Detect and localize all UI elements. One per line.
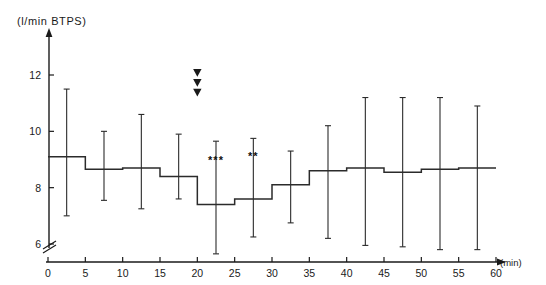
arrow-down-icon bbox=[193, 79, 201, 87]
figure-container: (l/min BTPS) 681012 05101520253035404550… bbox=[0, 0, 546, 285]
arrow-down-head bbox=[193, 69, 201, 77]
x-tick-label: 25 bbox=[229, 267, 241, 279]
y-tick-group: 681012 bbox=[29, 69, 54, 250]
error-bar bbox=[474, 106, 480, 250]
arrow-down-icon bbox=[193, 89, 201, 97]
error-bar bbox=[288, 151, 294, 223]
x-tick-label: 50 bbox=[415, 267, 427, 279]
x-tick-label: 0 bbox=[45, 267, 51, 279]
y-axis-arrow-icon bbox=[46, 28, 53, 37]
error-bar bbox=[437, 98, 443, 250]
axes-group bbox=[43, 28, 506, 265]
arrow-down-head bbox=[193, 79, 201, 87]
x-tick-label: 10 bbox=[117, 267, 129, 279]
annotation-arrow-group bbox=[193, 69, 201, 96]
error-bar bbox=[176, 134, 182, 199]
step-line-path bbox=[48, 157, 496, 205]
x-tick-label: 20 bbox=[191, 267, 203, 279]
arrow-down-head bbox=[193, 89, 201, 97]
step-chart-plot: (l/min BTPS) 681012 05101520253035404550… bbox=[0, 0, 546, 285]
x-tick-label: 55 bbox=[453, 267, 465, 279]
error-bar bbox=[64, 89, 70, 216]
y-tick-label: 8 bbox=[35, 182, 41, 194]
error-bar bbox=[101, 131, 107, 200]
arrow-down-icon bbox=[193, 69, 201, 77]
x-tick-label: 35 bbox=[303, 267, 315, 279]
y-tick-label: 12 bbox=[29, 69, 41, 81]
x-tick-label: 5 bbox=[82, 267, 88, 279]
x-tick-label: 60 bbox=[490, 267, 502, 279]
x-tick-label: 45 bbox=[378, 267, 390, 279]
step-line-group bbox=[48, 157, 496, 205]
x-tick-label: 40 bbox=[341, 267, 353, 279]
x-axis-unit-label: (min) bbox=[500, 257, 522, 268]
significance-marker: ** bbox=[248, 150, 259, 162]
error-bar bbox=[138, 114, 144, 208]
x-tick-label: 30 bbox=[266, 267, 278, 279]
x-tick-group: 051015202530354045505560 bbox=[45, 257, 502, 279]
y-tick-label: 6 bbox=[35, 238, 41, 250]
y-axis-title: (l/min BTPS) bbox=[17, 15, 87, 27]
x-tick-label: 15 bbox=[154, 267, 166, 279]
error-bar bbox=[325, 126, 331, 239]
error-bar bbox=[362, 98, 368, 246]
significance-marker: *** bbox=[208, 154, 224, 166]
y-tick-label: 10 bbox=[29, 125, 41, 137]
